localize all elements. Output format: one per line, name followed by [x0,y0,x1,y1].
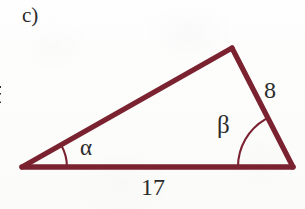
side-right-length-label: 8 [264,78,276,102]
side-base-length-label: 17 [141,175,165,199]
angle-beta-label: β [217,112,230,137]
angle-alpha-label: α [80,136,92,159]
triangle-side-long [22,48,232,167]
part-label: c) [22,5,38,26]
angle-arc-alpha [61,146,67,168]
side-left-label-clipped: 5 [0,82,1,107]
geometry-figure: 5 c) 8 17 α β [0,0,305,209]
angle-arc-beta [238,119,265,167]
